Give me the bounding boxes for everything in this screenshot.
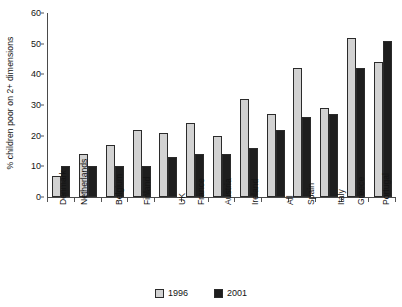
x-axis-category-label: Ireland <box>234 203 261 277</box>
bar-group <box>128 13 155 197</box>
x-axis-tick-mark <box>101 198 102 202</box>
legend-swatch-icon <box>155 289 164 298</box>
x-axis-category-label: Austria <box>208 203 235 277</box>
chart-legend: 19962001 <box>0 284 402 302</box>
x-axis-category-label-text: Ireland <box>250 179 260 205</box>
bar-finland-1996 <box>133 130 142 197</box>
y-axis-tick-label: 50 <box>31 39 41 49</box>
legend-item-1996: 1996 <box>155 288 188 298</box>
bar-ireland-1996 <box>240 99 249 197</box>
x-axis-category-label-text: Portugal <box>381 173 391 205</box>
bar-group <box>316 13 343 197</box>
y-axis-title-text: % children poor on 2+ dimensions <box>5 36 15 169</box>
bar-group <box>262 13 289 197</box>
bar-all-2001 <box>276 130 285 197</box>
legend-label: 1996 <box>168 288 188 298</box>
x-axis-category-label: Netherlands <box>74 203 101 277</box>
y-axis-tick-mark <box>41 43 45 44</box>
x-axis-category-label: Finland <box>127 203 154 277</box>
bar-uk-1996 <box>159 133 168 197</box>
bar-group <box>369 13 396 197</box>
x-axis-tick-mark <box>208 198 209 202</box>
y-axis-tick-mark <box>41 135 45 136</box>
y-axis-ticks: 0102030405060 <box>20 0 44 205</box>
y-axis-tick-label: 60 <box>31 8 41 18</box>
y-axis-title: % children poor on 2+ dimensions <box>0 0 20 205</box>
y-axis-tick-mark <box>41 74 45 75</box>
y-axis-tick-label: 30 <box>31 100 41 110</box>
x-axis-category-label: UK <box>154 203 181 277</box>
y-axis-tick-mark <box>41 13 45 14</box>
plot-area <box>47 13 396 198</box>
y-axis-tick-mark <box>41 105 45 106</box>
x-axis-category-label-text: Austria <box>223 178 233 205</box>
y-axis-tick-label: 20 <box>31 131 41 141</box>
x-axis-category-label: France <box>181 203 208 277</box>
x-axis-category-label-text: France <box>196 178 206 205</box>
bar-group <box>102 13 129 197</box>
legend-swatch-icon <box>214 289 223 298</box>
x-axis-category-label: Portugal <box>368 203 395 277</box>
bar-greece-1996 <box>347 38 356 197</box>
x-axis-category-label-text: Belgium <box>114 174 124 205</box>
bar-group <box>235 13 262 197</box>
x-axis-category-label: Italy <box>315 203 342 277</box>
bar-group <box>182 13 209 197</box>
bar-france-1996 <box>186 123 195 197</box>
x-axis-tick-mark <box>154 198 155 202</box>
x-axis-category-label: Greece <box>341 203 368 277</box>
bar-italy-2001 <box>329 114 338 197</box>
bar-all-1996 <box>267 114 276 197</box>
legend-item-2001: 2001 <box>214 288 247 298</box>
y-axis-tick-mark <box>41 197 45 198</box>
y-axis-tick-mark <box>41 166 45 167</box>
x-axis-category-label-text: Finland <box>142 177 152 205</box>
x-axis-labels: DenmarkNetherlandsBelgiumFinlandUKFrance… <box>47 203 395 277</box>
bar-group <box>155 13 182 197</box>
bar-chart-figure: % children poor on 2+ dimensions 0102030… <box>0 0 402 307</box>
x-axis-tick-mark <box>74 198 75 202</box>
bar-netherlands-2001 <box>88 166 97 197</box>
x-axis-category-label-text: Spain <box>306 183 316 205</box>
x-axis-tick-mark <box>234 198 235 202</box>
bar-group <box>209 13 236 197</box>
x-axis-category-label-text: Denmark <box>58 170 68 205</box>
x-axis-category-label-text: Greece <box>356 177 366 205</box>
x-axis-tick-mark <box>47 198 48 202</box>
bar-group <box>289 13 316 197</box>
bar-austria-1996 <box>213 136 222 197</box>
x-axis-category-label: All <box>261 203 288 277</box>
x-axis-category-label: Spain <box>288 203 315 277</box>
x-axis-category-label-text: Netherlands <box>79 159 89 205</box>
y-axis-tick-label: 40 <box>31 69 41 79</box>
legend-label: 2001 <box>227 288 247 298</box>
x-axis-tick-mark <box>395 198 396 202</box>
x-axis-tick-mark <box>261 198 262 202</box>
y-axis-tick-label: 10 <box>31 161 41 171</box>
x-axis-category-label: Denmark <box>47 203 74 277</box>
bar-italy-1996 <box>320 108 329 197</box>
bar-spain-1996 <box>293 68 302 197</box>
x-axis-tick-mark <box>368 198 369 202</box>
x-axis-tick-mark <box>127 198 128 202</box>
x-axis-category-label: Belgium <box>101 203 128 277</box>
bar-group <box>342 13 369 197</box>
bar-uk-2001 <box>168 157 177 197</box>
